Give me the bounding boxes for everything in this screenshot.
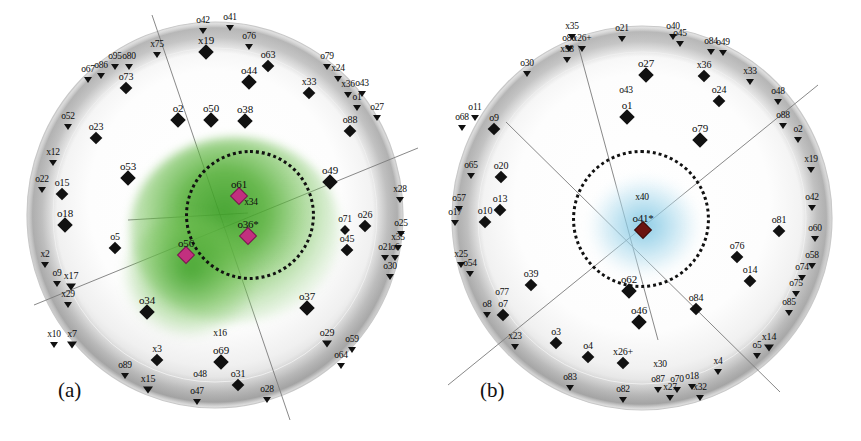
triangle-marker-icon xyxy=(49,160,57,166)
sensor-label: x2 xyxy=(40,249,49,259)
sensor-label: o27 xyxy=(370,102,384,112)
sensor-label: o64 xyxy=(334,350,348,360)
sensor-label: o77 xyxy=(495,287,509,297)
sensor-label: o30 xyxy=(383,261,397,271)
sensor-label: o57 xyxy=(452,193,466,203)
sensor-label: o28 xyxy=(260,384,274,394)
sensor-label: o45 xyxy=(340,233,354,244)
sensor-label: o53 xyxy=(120,160,136,172)
sensor-label: o2 xyxy=(793,124,802,134)
sensor-label: x35 xyxy=(391,232,405,242)
sensor-label: o2 xyxy=(173,102,184,114)
sensor-label: o89 xyxy=(118,360,132,370)
sensor-label: o58 xyxy=(805,250,819,260)
sensor-label: o54 xyxy=(463,258,477,268)
sensor-label: o26 xyxy=(358,209,372,220)
sensor-label: o46 xyxy=(631,304,647,316)
triangle-marker-icon xyxy=(676,41,684,47)
triangle-marker-icon xyxy=(811,236,819,242)
sensor-label: o86 xyxy=(94,60,108,70)
triangle-marker-icon xyxy=(373,115,381,121)
sensor-label: o85 xyxy=(782,297,796,307)
sensor-label: o50 xyxy=(203,102,219,114)
triangle-marker-icon xyxy=(753,353,761,359)
sensor-label: x26+ xyxy=(613,346,633,357)
triangle-marker-icon xyxy=(466,271,474,277)
triangle-marker-icon xyxy=(779,123,787,129)
sensor-label: x26+ xyxy=(573,33,592,43)
sensor-label: o83 xyxy=(563,372,577,382)
triangle-marker-icon xyxy=(746,79,754,85)
sensor-label: o48 xyxy=(771,86,785,96)
sensor-label: o3 xyxy=(551,326,561,337)
triangle-marker-icon xyxy=(785,310,793,316)
sensor-label: o17 xyxy=(448,207,462,217)
triangle-marker-icon xyxy=(84,77,92,83)
sensor-label: o56 xyxy=(178,237,194,249)
sensor-label: x14 xyxy=(762,331,776,342)
sensor-label: o14 xyxy=(743,264,757,275)
sensor-label: o41* xyxy=(632,212,653,224)
triangle-marker-icon xyxy=(322,341,332,348)
sensor-label: o74 xyxy=(795,262,809,272)
sensor-label: o49 xyxy=(322,164,338,176)
sensor-label: o76 xyxy=(730,240,744,251)
sensor-label: o37 xyxy=(299,290,315,302)
sensor-label: o44 xyxy=(241,64,257,76)
sensor-label: x16 xyxy=(213,328,227,338)
sensor-label: o25 xyxy=(394,218,408,228)
sensor-label: o1 xyxy=(622,99,633,111)
triangle-marker-icon xyxy=(794,137,802,143)
sensor-label: o79 xyxy=(320,51,334,61)
triangle-marker-icon xyxy=(467,173,475,179)
sensor-label: x23 xyxy=(508,331,522,341)
sensor-label: o24 xyxy=(712,84,726,95)
triangle-marker-icon xyxy=(666,395,674,401)
triangle-marker-icon xyxy=(774,99,782,105)
sensor-label: x36 xyxy=(341,79,355,89)
sensor-label: x33 xyxy=(743,66,757,76)
triangle-marker-icon xyxy=(808,263,816,269)
triangle-marker-icon xyxy=(41,262,49,268)
sensor-label: o15 xyxy=(55,177,69,188)
triangle-marker-icon xyxy=(619,397,627,403)
sensor-label: o62 xyxy=(621,273,637,285)
triangle-marker-icon xyxy=(38,187,46,193)
sensor-label: o11 xyxy=(468,102,481,112)
sensor-label: o71 xyxy=(338,214,352,224)
sensor-label: o84 xyxy=(689,292,703,303)
sensor-label: x24 xyxy=(331,63,345,73)
sensor-label: o59 xyxy=(345,334,359,344)
sensor-label: o48 xyxy=(193,369,207,379)
triangle-marker-icon xyxy=(523,71,531,77)
sensor-label: x7 xyxy=(67,328,77,339)
sensor-label: o18 xyxy=(685,371,699,381)
sensor-label: o49 xyxy=(716,37,730,47)
sensor-label: o52 xyxy=(61,111,75,121)
sensor-label: o81 xyxy=(772,214,786,225)
sensor-label: x12 xyxy=(46,147,60,157)
sensor-label: x19 xyxy=(804,154,818,164)
triangle-marker-icon xyxy=(566,385,574,391)
triangle-marker-icon xyxy=(808,205,816,211)
triangle-marker-icon xyxy=(337,363,345,369)
sensor-label: o8 xyxy=(482,299,491,309)
triangle-marker-icon xyxy=(125,64,133,70)
sensor-label: o18 xyxy=(57,207,73,219)
sensor-label: x10 xyxy=(47,329,61,339)
triangle-marker-icon xyxy=(193,399,201,405)
sensor-label: o4 xyxy=(583,340,593,351)
sensor-label: o38 xyxy=(237,103,253,115)
sensor-label: o29 xyxy=(320,327,334,338)
panel-a-caption: (a) xyxy=(58,378,81,403)
triangle-marker-icon xyxy=(64,124,72,130)
sensor-label: o65 xyxy=(464,160,478,170)
sensor-label: x19 xyxy=(198,34,214,46)
triangle-marker-icon xyxy=(618,36,626,42)
sensor-label: x27 xyxy=(663,382,677,392)
sensor-label: o43 xyxy=(619,85,633,95)
triangle-marker-icon xyxy=(323,64,331,70)
triangle-marker-icon xyxy=(245,44,253,50)
sensor-label: x15 xyxy=(141,373,155,384)
triangle-marker-icon xyxy=(714,369,722,375)
